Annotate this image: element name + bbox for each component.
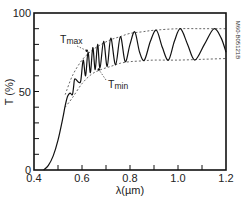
x-axis-title: λ(µm) (116, 184, 144, 196)
x-tick-label: 0.6 (74, 172, 89, 184)
y-tick-label: 100 (13, 7, 31, 19)
x-tick-label: 1.0 (170, 172, 185, 184)
tmax-label: Tmax (60, 33, 83, 46)
tmax-marker (86, 49, 88, 51)
y-axis-title: T (%) (3, 79, 15, 106)
tmin-leader (99, 70, 106, 80)
axis-tick-labels: 0.40.60.81.01.2050100 (13, 7, 234, 184)
side-label: M60-B05121B (235, 21, 241, 59)
x-tick-label: 1.2 (218, 172, 233, 184)
transmission-chart: 0.40.60.81.01.2050100 λ(µm) T (%) M60-B0… (0, 0, 243, 201)
y-tick-label: 50 (19, 86, 31, 98)
x-tick-label: 0.8 (122, 172, 137, 184)
tmin-label: Tmin (108, 78, 128, 91)
tmax-leader (77, 46, 87, 51)
y-tick-label: 0 (25, 164, 31, 176)
tmin-marker (98, 68, 100, 70)
